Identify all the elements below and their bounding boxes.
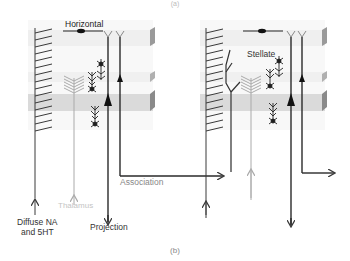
layer-band-3 bbox=[28, 94, 153, 111]
association-label: Association bbox=[120, 177, 164, 187]
stellate-label: Stellate bbox=[247, 49, 276, 59]
thalamus-label: Thalamus bbox=[58, 201, 93, 210]
figure-label-a: (a) bbox=[171, 0, 180, 8]
cortical-circuit-diagram: (a) Horizontal Stellate Association Thal… bbox=[0, 0, 350, 261]
diffuse-label-line1: Diffuse NA bbox=[17, 217, 58, 227]
layer-band-2 bbox=[28, 72, 153, 82]
layer-band-1 bbox=[28, 30, 153, 46]
horizontal-label: Horizontal bbox=[65, 19, 103, 29]
figure-label-b: (b) bbox=[170, 246, 180, 255]
projection-label: Projection bbox=[90, 222, 128, 232]
diffuse-label-line2: and 5HT bbox=[21, 227, 54, 237]
